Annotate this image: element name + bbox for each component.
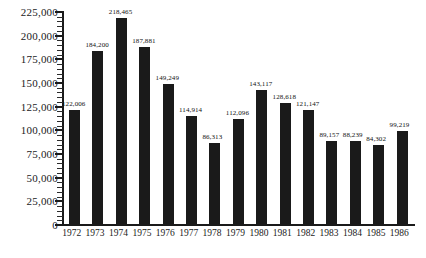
y-axis-tick-label: 25,000 [2, 196, 58, 207]
y-axis-minor-tick [57, 50, 63, 51]
bar-value-label: 143,117 [249, 81, 272, 88]
y-axis-minor-tick [57, 126, 63, 127]
y-axis-tick-label: 200,000 [2, 30, 58, 41]
y-axis-minor-tick [57, 69, 63, 70]
y-axis-minor-tick [57, 64, 63, 65]
y-axis-tick-label: 125,000 [2, 101, 58, 112]
bar-value-label: 112,096 [226, 110, 249, 117]
y-axis-major-tick [55, 224, 64, 226]
y-axis-minor-tick [57, 88, 63, 89]
y-axis-tick-label: 150,000 [2, 78, 58, 89]
bar [373, 145, 384, 225]
bar [256, 90, 267, 225]
y-axis-minor-tick [57, 211, 63, 212]
bar-group: 149,249 [158, 12, 181, 225]
bar-value-label: 114,914 [179, 107, 202, 114]
bar [186, 116, 197, 225]
bar [303, 110, 314, 225]
y-axis-major-tick [55, 35, 64, 37]
bar [233, 119, 244, 225]
y-axis-minor-tick [57, 149, 63, 150]
bar [326, 141, 337, 225]
bar-group: 187,881 [134, 12, 157, 225]
y-axis-minor-tick [57, 197, 63, 198]
y-axis-minor-tick [57, 97, 63, 98]
y-axis-major-tick [55, 11, 64, 13]
bar-value-label: 149,249 [156, 75, 179, 82]
x-axis: 1972197319741975197619771978197919801981… [64, 228, 415, 248]
bar-group: 88,239 [345, 12, 368, 225]
y-axis-tick-label: 0 [2, 220, 58, 231]
y-axis-major-tick [55, 82, 64, 84]
bar-group: 143,117 [251, 12, 274, 225]
y-axis-major-tick [55, 129, 64, 131]
bar-value-label: 89,157 [319, 132, 339, 139]
y-axis-minor-tick [57, 45, 63, 46]
x-axis-tick-label: 1986 [384, 228, 414, 239]
bar-group: 121,147 [298, 12, 321, 225]
y-axis-minor-tick [57, 220, 63, 221]
y-axis-minor-tick [57, 17, 63, 18]
y-axis-minor-tick [57, 145, 63, 146]
y-axis-minor-tick [57, 31, 63, 32]
bar-value-label: 218,465 [109, 9, 132, 16]
bar-value-label: 86,313 [202, 134, 222, 141]
y-axis-major-tick [55, 200, 64, 202]
bar-value-label: 128,618 [273, 94, 296, 101]
y-axis-minor-tick [57, 187, 63, 188]
bar-value-label: 122,006 [62, 101, 85, 108]
y-axis-minor-tick [57, 121, 63, 122]
bar-group: 128,618 [275, 12, 298, 225]
y-axis-minor-tick [57, 78, 63, 79]
y-axis-tick-label: 75,000 [2, 149, 58, 160]
bar-group: 184,200 [87, 12, 110, 225]
y-axis-minor-tick [57, 21, 63, 22]
bar [163, 84, 174, 225]
bar-group: 218,465 [111, 12, 134, 225]
y-axis-major-tick [55, 106, 64, 108]
bar-group: 86,313 [204, 12, 227, 225]
bar [350, 141, 361, 225]
y-axis-minor-tick [57, 74, 63, 75]
y-axis-minor-tick [57, 192, 63, 193]
y-axis: 025,00050,00075,000100,000125,000150,000… [0, 0, 58, 258]
plot-area: 122,006184,200218,465187,881149,249114,9… [64, 12, 415, 225]
y-axis-major-tick [55, 58, 64, 60]
y-axis-minor-tick [57, 216, 63, 217]
y-axis-tick-label: 225,000 [2, 7, 58, 18]
bar-value-label: 99,219 [390, 122, 410, 129]
bar [209, 143, 220, 225]
y-axis-minor-tick [57, 159, 63, 160]
y-axis-tick-label: 50,000 [2, 172, 58, 183]
y-axis-minor-tick [57, 102, 63, 103]
bar-group: 122,006 [64, 12, 87, 225]
bar-value-label: 184,200 [85, 42, 108, 49]
bar [280, 103, 291, 225]
bar [397, 131, 408, 225]
y-axis-minor-tick [57, 163, 63, 164]
y-axis-tick-label: 100,000 [2, 125, 58, 136]
y-axis-minor-tick [57, 116, 63, 117]
y-axis-minor-tick [57, 206, 63, 207]
y-axis-minor-tick [57, 26, 63, 27]
y-axis-major-tick [55, 177, 64, 179]
bar-group: 84,302 [368, 12, 391, 225]
bar-value-label: 88,239 [343, 132, 363, 139]
y-axis-minor-tick [57, 40, 63, 41]
y-axis-tick-label: 175,000 [2, 54, 58, 65]
y-axis-minor-tick [57, 135, 63, 136]
bar-group: 114,914 [181, 12, 204, 225]
bar-group: 89,157 [321, 12, 344, 225]
bar-group: 112,096 [228, 12, 251, 225]
bar [139, 47, 150, 225]
y-axis-minor-tick [57, 140, 63, 141]
bar-group: 99,219 [392, 12, 415, 225]
bar-value-label: 187,881 [132, 38, 155, 45]
y-axis-minor-tick [57, 173, 63, 174]
y-axis-minor-tick [57, 111, 63, 112]
y-axis-major-tick [55, 153, 64, 155]
bar [116, 18, 127, 225]
y-axis-minor-tick [57, 92, 63, 93]
bar-value-label: 84,302 [366, 136, 386, 143]
y-axis-minor-tick [57, 168, 63, 169]
